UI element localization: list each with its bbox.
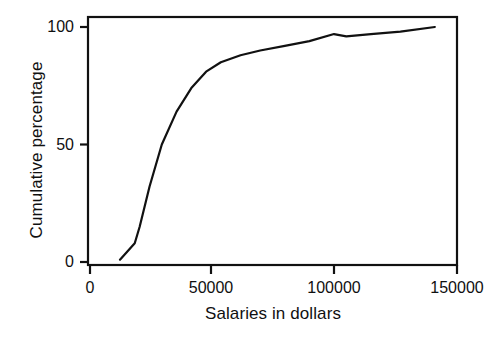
- y-tick-label: 0: [20, 253, 74, 271]
- chart-plot-area: [0, 0, 500, 339]
- y-tick-label: 100: [20, 18, 74, 36]
- x-tick-label: 50000: [189, 279, 234, 297]
- x-tick-label: 150000: [430, 279, 483, 297]
- x-tick-label: 0: [86, 279, 95, 297]
- y-tick-label: 50: [20, 136, 74, 154]
- x-axis-title: Salaries in dollars: [88, 304, 458, 324]
- chart-figure: Cumulative percentage Salaries in dollar…: [0, 0, 500, 339]
- x-tick-label: 100000: [307, 279, 360, 297]
- plot-background: [0, 0, 500, 339]
